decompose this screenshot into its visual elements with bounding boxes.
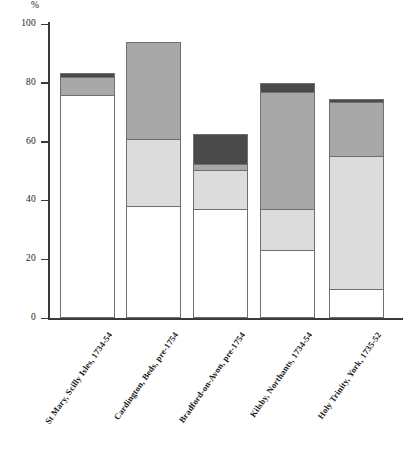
y-tick-label-40: 40	[10, 195, 36, 205]
bar-5-segment-2	[329, 156, 384, 288]
bar-4-segment-2	[260, 209, 315, 250]
y-tick-label-100: 100	[10, 19, 36, 29]
bar-3-segment-4	[193, 134, 248, 163]
bar-3[interactable]	[193, 24, 248, 318]
bar-4-segment-4	[260, 83, 315, 92]
bar-4-segment-1	[260, 250, 315, 318]
bar-2[interactable]	[126, 24, 181, 318]
bar-3-segment-3	[193, 164, 248, 170]
bar-4[interactable]	[260, 24, 315, 318]
bars-layer	[48, 24, 403, 318]
bar-3-segment-2	[193, 170, 248, 210]
bar-5-segment-1	[329, 289, 384, 318]
bar-4-segment-3	[260, 92, 315, 210]
category-label-4: Kilsby, Northants, 1734-54	[247, 330, 314, 419]
bar-1-segment-4	[60, 73, 115, 77]
bar-1-segment-3	[60, 77, 115, 95]
category-label-2: Cardington, Beds, pre-1754	[111, 330, 179, 422]
bar-5[interactable]	[329, 24, 384, 318]
bar-1[interactable]	[60, 24, 115, 318]
bar-1-segment-1	[60, 95, 115, 318]
y-tick-label-80: 80	[10, 78, 36, 88]
y-axis-title: %	[24, 0, 46, 10]
stacked-bar-chart: % 020406080100 St Mary, Scilly Isles, 17…	[0, 0, 415, 473]
y-tick-label-60: 60	[10, 137, 36, 147]
category-label-1: St Mary, Scilly Isles, 1734-54	[42, 330, 113, 426]
x-axis-line	[48, 318, 403, 320]
bar-2-segment-2	[126, 139, 181, 207]
bar-5-segment-3	[329, 102, 384, 156]
y-tick-label-0: 0	[10, 313, 36, 323]
bar-2-segment-3	[126, 42, 181, 139]
y-tick-label-20: 20	[10, 254, 36, 264]
bar-2-segment-1	[126, 206, 181, 318]
category-label-5: Holy Trinity, York, 1735-52	[315, 330, 383, 421]
category-label-3: Bradford-on-Avon, pre-1754	[176, 330, 246, 425]
bar-5-segment-4	[329, 99, 384, 102]
bar-3-segment-1	[193, 209, 248, 318]
